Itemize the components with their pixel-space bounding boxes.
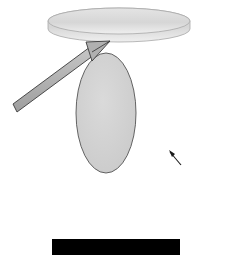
plume-ellipse (76, 53, 136, 173)
target-top-face (48, 8, 190, 34)
substrate-base (52, 239, 180, 255)
diagram-canvas (0, 0, 227, 279)
target-group (48, 8, 190, 42)
ozone-callout-arrowhead (169, 150, 175, 157)
pld-diagram (0, 0, 227, 279)
plume-group (76, 53, 136, 173)
ozone-callout-group (169, 150, 181, 165)
substrate-group (52, 239, 180, 255)
